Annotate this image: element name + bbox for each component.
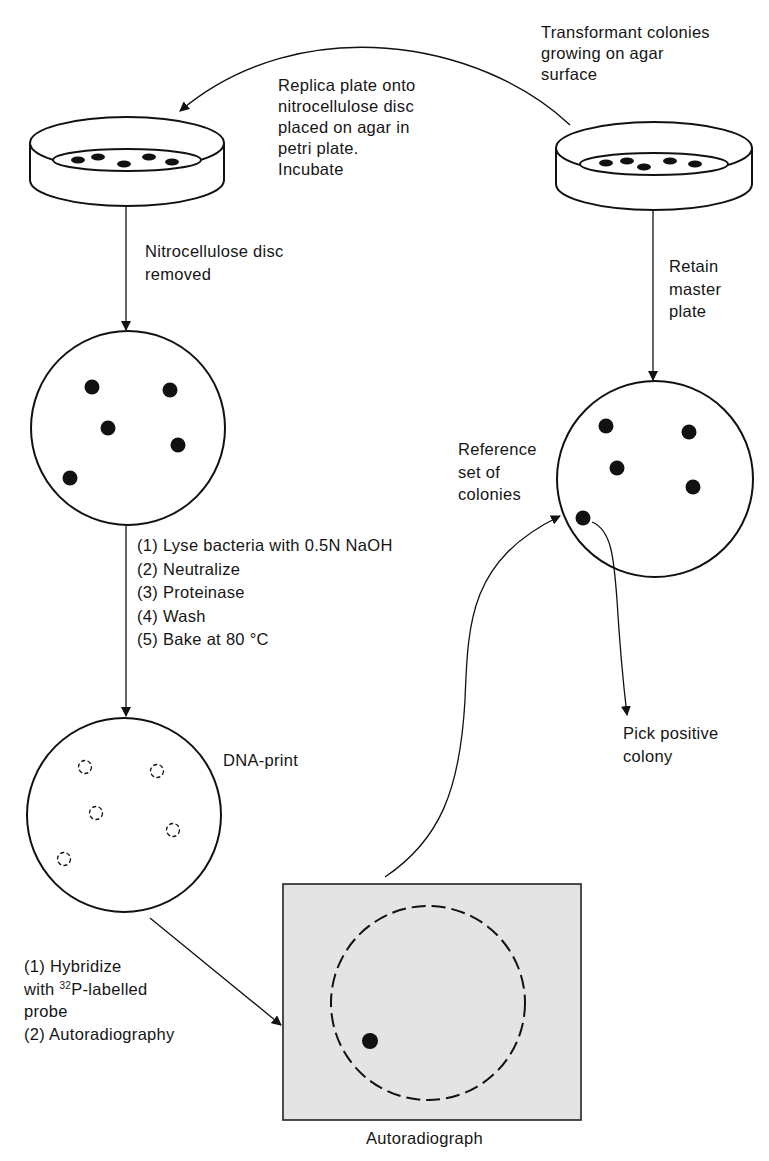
lysis-step: (2) Neutralize [137,558,393,582]
transformant-label: Transformant colonies growing on agar su… [541,22,710,85]
pick-colony-label: Pick positive colony [623,722,719,767]
nitrocellulose-disc [31,331,225,525]
lysis-step: (5) Bake at 80 °C [137,628,393,652]
lysis-steps-list: (1) Lyse bacteria with 0.5N NaOH (2) Neu… [137,534,393,652]
reference-label: Reference set of colonies [458,438,537,506]
isotope-superscript: 32 [59,980,71,991]
reference-plate [557,381,753,577]
autoradiograph-label: Autoradiograph [366,1127,483,1150]
lysis-step: (3) Proteinase [137,581,393,605]
dna-print-label: DNA-print [223,749,298,772]
dna-print-disc [27,718,221,912]
autoradiograph-film [283,884,581,1120]
replica-label: Replica plate onto nitrocellulose disc p… [278,75,416,180]
hybridize-label: (1) Hybridize with 32P-labelled probe (2… [24,955,175,1045]
retain-label: Retain master plate [669,255,721,323]
replica-petri-dish [30,117,224,206]
disc-removed-label: Nitrocellulose disc removed [145,240,284,285]
lysis-step: (4) Wash [137,605,393,629]
lysis-step: (1) Lyse bacteria with 0.5N NaOH [137,534,393,558]
match-arrow [385,516,560,877]
master-petri-dish [556,122,752,210]
